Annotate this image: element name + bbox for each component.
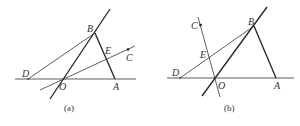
label-A: A: [112, 81, 120, 92]
line-DB: [180, 26, 254, 78]
line-OB: [202, 7, 267, 96]
label-O: O: [59, 81, 66, 92]
ray-OC: [40, 46, 135, 90]
label-B: B: [248, 16, 254, 27]
label-A: A: [273, 80, 281, 91]
segment-BA: [254, 26, 276, 78]
figure-b: C B E D O A (b): [167, 7, 294, 113]
point-C: [127, 48, 130, 51]
label-C: C: [191, 20, 198, 31]
label-D: D: [21, 68, 30, 79]
caption-a: (a): [64, 103, 74, 113]
label-E: E: [104, 45, 111, 56]
label-O: O: [218, 80, 225, 91]
label-C: C: [126, 52, 133, 63]
figure-a: B E C D O A (a): [15, 9, 136, 113]
caption-b: (b): [224, 103, 235, 113]
point-D: [179, 77, 181, 79]
geometry-figures: B E C D O A (a) C B E D O A (b): [0, 0, 300, 126]
segment-BA: [95, 33, 115, 79]
label-B: B: [87, 23, 93, 34]
point-C: [199, 24, 202, 27]
line-DB: [28, 33, 95, 79]
label-D: D: [171, 67, 180, 78]
label-E: E: [199, 49, 206, 60]
